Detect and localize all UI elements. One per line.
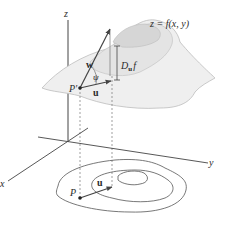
- angle-label: ψ: [93, 72, 99, 82]
- level-curves: [56, 159, 186, 212]
- surface-label: z = f(x, y): [149, 18, 190, 30]
- y-axis-label: y: [208, 157, 214, 168]
- x-axis-label: x: [0, 178, 5, 189]
- z-axis-label: z: [63, 8, 68, 19]
- vector-u-plane-label: u: [97, 177, 103, 188]
- vector-u-surface-label: u: [93, 87, 99, 98]
- point-p-prime-label: P′: [68, 83, 78, 94]
- vector-u-plane: [80, 187, 112, 198]
- point-p-prime: [78, 86, 82, 90]
- vector-w-label: w: [86, 59, 94, 70]
- point-p-label: P: [69, 187, 76, 198]
- x-axis: [8, 128, 88, 181]
- point-p: [78, 196, 82, 200]
- diagram-canvas: z x y z = f(x, y) P′ P w u u ψ Duf: [0, 0, 226, 227]
- y-axis: [38, 137, 208, 163]
